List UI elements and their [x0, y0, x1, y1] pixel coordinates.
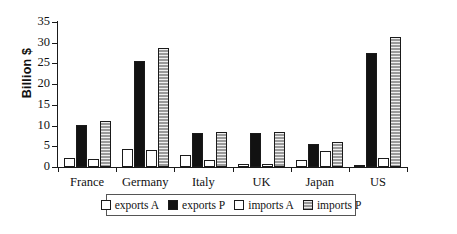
bar-imports-p [390, 37, 401, 168]
bar-exports-a [64, 158, 75, 167]
chart-legend: exports Aexports Pimports Aimports P [106, 194, 356, 216]
legend-label: imports A [248, 199, 294, 211]
bar-exports-a [238, 164, 249, 167]
y-tick-label-wrap: 35 [0, 15, 50, 27]
x-tick-mark [233, 167, 234, 172]
bar-group-bars [116, 22, 174, 167]
legend-label: exports P [182, 199, 225, 211]
x-axis-label: US [349, 175, 407, 189]
bar-imports-p [100, 121, 111, 167]
legend-swatch-icon [101, 200, 111, 210]
bar-imports-a [88, 159, 99, 167]
bar-chart: Billion $ 05101520253035 FranceGermanyIt… [0, 0, 457, 234]
x-tick-mark [174, 167, 175, 172]
legend-item: imports A [234, 199, 294, 211]
legend-swatch-icon [303, 200, 313, 210]
x-axis-label: UK [233, 175, 291, 189]
x-tick-mark [349, 167, 350, 172]
bar-group [174, 22, 232, 167]
bar-exports-p [134, 61, 145, 167]
y-tick-label: 20 [4, 77, 50, 89]
x-tick-mark [58, 167, 59, 172]
legend-item: exports P [168, 199, 225, 211]
x-axis-label: France [58, 175, 116, 189]
bar-imports-a [146, 150, 157, 167]
x-tick-mark [407, 167, 408, 172]
bar-exports-a [122, 149, 133, 167]
bar-exports-p [250, 133, 261, 167]
legend-item: exports A [101, 199, 159, 211]
y-tick-label: 35 [4, 15, 50, 27]
legend-swatch-icon [234, 200, 244, 210]
y-tick-label: 25 [4, 56, 50, 68]
bar-group-bars [233, 22, 291, 167]
y-tick-label-wrap: 0 [0, 160, 50, 172]
y-tick-label-wrap: 20 [0, 77, 50, 89]
bar-imports-a [204, 160, 215, 167]
legend-label: imports P [317, 199, 361, 211]
x-tick-mark [291, 167, 292, 172]
bar-group-bars [291, 22, 349, 167]
x-axis-label: Italy [174, 175, 232, 189]
legend-label: exports A [115, 199, 159, 211]
bar-exports-a [296, 160, 307, 167]
y-tick-label-wrap: 25 [0, 56, 50, 68]
bar-exports-a [180, 155, 191, 167]
bar-group-bars [349, 22, 407, 167]
y-tick-label: 10 [4, 119, 50, 131]
y-tick-label: 0 [4, 160, 50, 172]
bar-imports-p [158, 48, 169, 167]
bar-exports-a [354, 165, 365, 167]
plot-area [58, 22, 407, 167]
bar-imports-p [332, 142, 343, 167]
y-tick-label: 15 [4, 98, 50, 110]
bar-imports-p [216, 132, 227, 167]
bar-group [233, 22, 291, 167]
y-tick-label-wrap: 15 [0, 98, 50, 110]
bar-group-bars [58, 22, 116, 167]
bar-imports-p [274, 132, 285, 167]
legend-swatch-icon [168, 200, 178, 210]
bar-imports-a [320, 151, 331, 167]
bar-exports-p [192, 133, 203, 167]
bar-exports-p [308, 144, 319, 167]
bar-imports-a [378, 158, 389, 167]
y-tick-label-wrap: 10 [0, 119, 50, 131]
bar-group [116, 22, 174, 167]
bar-exports-p [366, 53, 377, 167]
bar-group-bars [174, 22, 232, 167]
bar-group [291, 22, 349, 167]
bar-group [349, 22, 407, 167]
bar-exports-p [76, 125, 87, 167]
x-tick-mark [116, 167, 117, 172]
y-tick-label: 30 [4, 36, 50, 48]
y-tick-label-wrap: 30 [0, 36, 50, 48]
x-axis-label: Germany [116, 175, 174, 189]
bar-group [58, 22, 116, 167]
y-tick-label: 5 [4, 139, 50, 151]
bar-imports-a [262, 164, 273, 167]
legend-item: imports P [303, 199, 361, 211]
x-axis-label: Japan [291, 175, 349, 189]
y-tick-label-wrap: 5 [0, 139, 50, 151]
